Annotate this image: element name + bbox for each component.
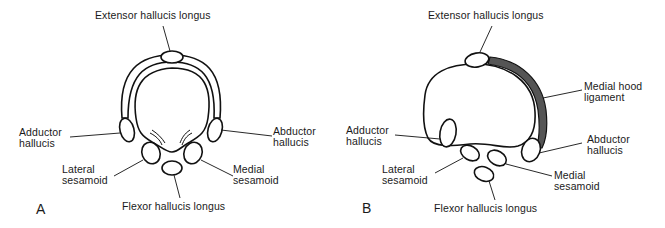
panel-b: Extensor hallucis longus Medial hood lig… bbox=[330, 0, 665, 228]
label-flexor-hallucis-longus: Flexor hallucis longus bbox=[434, 203, 537, 214]
label-abductor-hallucis: Abductor hallucis bbox=[587, 134, 630, 156]
label-abductor-hallucis: Abductor hallucis bbox=[273, 126, 316, 148]
label-lateral-sesamoid: Lateral sesamoid bbox=[382, 164, 428, 186]
label-medial-sesamoid: Medial sesamoid bbox=[554, 170, 600, 192]
label-extensor-hallucis-longus: Extensor hallucis longus bbox=[95, 10, 211, 21]
label-medial-hood-ligament: Medial hood ligament bbox=[584, 81, 642, 103]
metatarsal-cross-section-displaced bbox=[330, 0, 665, 228]
panel-a: Extensor hallucis longus Adductor halluc… bbox=[0, 0, 330, 228]
label-flexor-hallucis-longus: Flexor hallucis longus bbox=[122, 201, 225, 212]
panel-letter-a: A bbox=[36, 201, 45, 217]
panel-letter-b: B bbox=[362, 200, 371, 216]
metatarsal-cross-section-normal bbox=[0, 0, 330, 228]
label-adductor-hallucis: Adductor hallucis bbox=[19, 127, 62, 149]
label-lateral-sesamoid: Lateral sesamoid bbox=[62, 164, 108, 186]
label-medial-sesamoid: Medial sesamoid bbox=[233, 164, 279, 186]
label-extensor-hallucis-longus: Extensor hallucis longus bbox=[428, 10, 544, 21]
label-adductor-hallucis: Adductor hallucis bbox=[346, 125, 389, 147]
